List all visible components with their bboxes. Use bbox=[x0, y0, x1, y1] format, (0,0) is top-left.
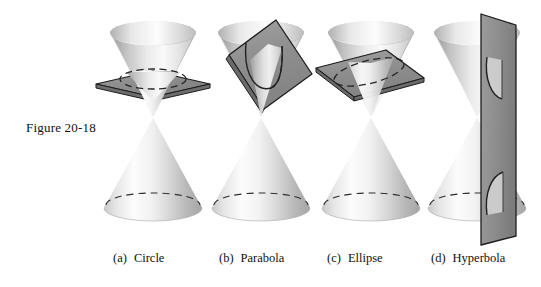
caption-hyperbola: (d)Hyperbola bbox=[431, 251, 505, 266]
caption-parabola: (b)Parabola bbox=[219, 251, 284, 266]
caption-tag-c: (c) bbox=[327, 251, 341, 265]
caption-ellipse: (c)Ellipse bbox=[327, 251, 383, 266]
caption-tag-a: (a) bbox=[113, 251, 127, 265]
panel-hyperbola bbox=[428, 14, 526, 245]
caption-row: (a)Circle (b)Parabola (c)Ellipse (d)Hype… bbox=[0, 251, 541, 273]
caption-name-c: Ellipse bbox=[348, 251, 383, 265]
caption-tag-d: (d) bbox=[431, 251, 446, 265]
caption-tag-b: (b) bbox=[219, 251, 234, 265]
cutting-plane-hyperbola bbox=[481, 14, 516, 245]
caption-circle: (a)Circle bbox=[113, 251, 164, 266]
cutting-plane-circle bbox=[96, 69, 210, 117]
panel-circle bbox=[96, 21, 210, 221]
panel-ellipse bbox=[316, 21, 424, 221]
caption-name-b: Parabola bbox=[241, 251, 285, 265]
panel-parabola bbox=[212, 20, 312, 221]
caption-name-a: Circle bbox=[134, 251, 165, 265]
conic-sections-figure bbox=[0, 0, 541, 287]
cone-lower-nappe-a bbox=[104, 118, 202, 221]
caption-name-d: Hyperbola bbox=[453, 251, 506, 265]
cutting-plane-ellipse bbox=[316, 50, 424, 117]
figure-label: Figure 20-18 bbox=[26, 120, 96, 136]
cone-lower-nappe-b bbox=[212, 118, 310, 221]
cone-lower-nappe-c bbox=[322, 118, 420, 221]
